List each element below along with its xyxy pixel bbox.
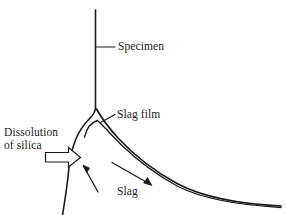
upward-flow-arrow (83, 165, 98, 192)
slag-film-label: Slag film (117, 108, 160, 121)
slag-film-diagram: Specimen Slag film Dissolutionof silica … (0, 0, 286, 215)
dissolution-label-line-2: of silica (4, 139, 80, 152)
specimen-edge-path (63, 10, 96, 215)
dissolution-label-line-1: Dissolution (4, 126, 58, 138)
specimen-label: Specimen (118, 40, 164, 53)
slag-label: Slag (117, 185, 138, 198)
dissolution-of-silica-label: Dissolutionof silica (4, 126, 80, 152)
